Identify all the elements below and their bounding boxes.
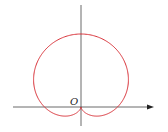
x-axis-arrow-icon [147, 105, 154, 110]
origin-label: O [70, 96, 78, 107]
cardioid-diagram: O [0, 0, 168, 132]
